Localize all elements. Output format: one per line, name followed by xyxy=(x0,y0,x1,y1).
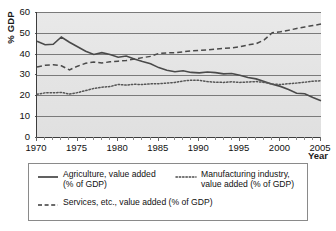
legend-entry-agriculture: Agriculture, value added (% of GDP) xyxy=(37,169,167,189)
x-tickmark-1975 xyxy=(77,137,78,141)
legend-label-manufacturing-line1: Manufacturing industry, xyxy=(201,169,290,179)
x-minor-tick-1973 xyxy=(60,137,61,140)
chart-plot-area: % GDP 60 50 40 30 20 10 0 xyxy=(0,0,336,160)
x-tick-label-1980: 1980 xyxy=(100,143,134,153)
x-minor-tick-1992 xyxy=(215,137,216,140)
legend-label-agriculture: Agriculture, value added (% of GDP) xyxy=(63,169,156,189)
x-minor-tick-1978 xyxy=(101,137,102,140)
x-tickmark-1980 xyxy=(117,137,118,141)
x-minor-tick-1979 xyxy=(109,137,110,140)
x-minor-tick-1993 xyxy=(223,137,224,140)
x-tick-label-1985: 1985 xyxy=(141,143,175,153)
x-minor-tick-1994 xyxy=(231,137,232,140)
dashed-line-icon xyxy=(37,197,63,208)
x-minor-tick-1991 xyxy=(206,137,207,140)
x-minor-tick-1997 xyxy=(255,137,256,140)
x-tick-label-1995: 1995 xyxy=(222,143,256,153)
x-minor-tick-1988 xyxy=(182,137,183,140)
y-tick-label-50: 50 xyxy=(4,28,30,38)
plot-canvas xyxy=(36,12,321,138)
x-minor-tick-2004 xyxy=(312,137,313,140)
x-minor-tick-1974 xyxy=(68,137,69,140)
chart-legend: Agriculture, value added (% of GDP) Manu… xyxy=(28,163,308,221)
legend-entry-manufacturing: Manufacturing industry, value added (% o… xyxy=(175,169,307,189)
x-minor-tick-1982 xyxy=(133,137,134,140)
x-tickmark-2005 xyxy=(320,137,321,141)
x-minor-tick-1989 xyxy=(190,137,191,140)
legend-label-agriculture-line1: Agriculture, value added xyxy=(63,169,156,179)
x-tick-label-1990: 1990 xyxy=(181,143,215,153)
x-minor-tick-1998 xyxy=(263,137,264,140)
series-lines xyxy=(37,12,321,137)
chart-figure: % GDP 60 50 40 30 20 10 0 xyxy=(0,0,336,231)
x-tickmark-1990 xyxy=(198,137,199,141)
dotted-line-icon xyxy=(175,169,201,180)
x-minor-tick-1996 xyxy=(247,137,248,140)
legend-label-manufacturing-line2: value added (% of GDP) xyxy=(201,179,294,189)
y-tick-label-60: 60 xyxy=(4,7,30,17)
x-minor-tick-1977 xyxy=(93,137,94,140)
x-minor-tick-1983 xyxy=(141,137,142,140)
x-minor-tick-2001 xyxy=(288,137,289,140)
x-tickmark-1995 xyxy=(239,137,240,141)
x-minor-tick-1986 xyxy=(166,137,167,140)
y-tick-label-10: 10 xyxy=(4,111,30,121)
x-minor-tick-1999 xyxy=(271,137,272,140)
legend-label-agriculture-line2: (% of GDP) xyxy=(63,179,107,189)
x-tickmark-1985 xyxy=(158,137,159,141)
x-tickmark-2000 xyxy=(279,137,280,141)
x-minor-tick-1984 xyxy=(150,137,151,140)
x-tickmark-1970 xyxy=(36,137,37,141)
x-minor-tick-1972 xyxy=(52,137,53,140)
legend-label-services-line1: Services, etc., value added (% of GDP) xyxy=(63,197,213,207)
y-axis-ticks: 60 50 40 30 20 10 0 xyxy=(4,0,30,160)
y-tick-label-20: 20 xyxy=(4,90,30,100)
x-minor-tick-2002 xyxy=(296,137,297,140)
x-minor-tick-1981 xyxy=(125,137,126,140)
x-axis-title: Year xyxy=(308,150,328,161)
legend-entry-services: Services, etc., value added (% of GDP) xyxy=(37,197,297,208)
legend-label-manufacturing: Manufacturing industry, value added (% o… xyxy=(201,169,294,189)
x-minor-tick-2003 xyxy=(304,137,305,140)
legend-label-services: Services, etc., value added (% of GDP) xyxy=(63,197,213,207)
x-minor-tick-1976 xyxy=(85,137,86,140)
series-line-manufacturing xyxy=(37,80,321,94)
x-tick-label-1970: 1970 xyxy=(19,143,53,153)
y-tick-label-0: 0 xyxy=(4,132,30,142)
y-tick-label-40: 40 xyxy=(4,49,30,59)
x-minor-tick-1987 xyxy=(174,137,175,140)
x-tick-label-1975: 1975 xyxy=(60,143,94,153)
series-line-agriculture xyxy=(37,37,321,101)
x-tick-label-2000: 2000 xyxy=(262,143,296,153)
solid-line-icon xyxy=(37,169,63,180)
y-tick-label-30: 30 xyxy=(4,69,30,79)
x-minor-tick-1971 xyxy=(44,137,45,140)
